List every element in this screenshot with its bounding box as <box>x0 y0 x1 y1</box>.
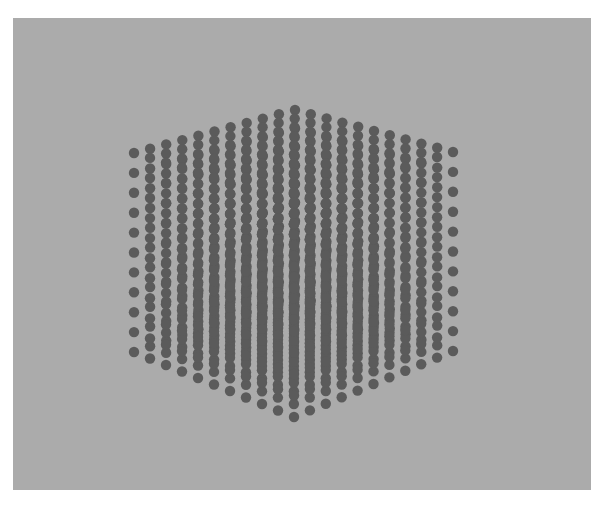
lattice-dot <box>416 247 426 257</box>
lattice-dot <box>209 163 219 173</box>
lattice-dot <box>337 245 347 255</box>
lattice-dot <box>353 149 363 159</box>
lattice-dot <box>368 244 378 254</box>
lattice-dot <box>416 278 426 288</box>
lattice-dot <box>289 158 299 168</box>
lattice-dot <box>432 143 442 153</box>
lattice-dot <box>177 193 187 203</box>
lattice-dot <box>257 314 267 324</box>
lattice-dot <box>273 163 283 173</box>
lattice-dot <box>432 292 442 302</box>
lattice-dot <box>273 154 283 164</box>
lattice-dot <box>145 262 155 272</box>
lattice-dot <box>289 131 299 141</box>
lattice-dot <box>209 204 219 214</box>
lattice-dot <box>337 214 347 224</box>
lattice-dot <box>369 126 379 136</box>
lattice-dot <box>161 188 171 198</box>
lattice-dot <box>145 313 155 323</box>
lattice-dot <box>161 168 171 178</box>
lattice-dot <box>209 144 219 154</box>
lattice-dot <box>352 229 362 239</box>
lattice-dot <box>209 285 219 295</box>
lattice-dot <box>368 296 378 306</box>
lattice-dot <box>321 240 331 250</box>
lattice-dot <box>321 187 331 197</box>
lattice-dot <box>257 303 267 313</box>
lattice-dot <box>400 243 410 253</box>
lattice-dot <box>416 298 426 308</box>
lattice-dot <box>321 272 331 282</box>
lattice-dot <box>289 326 299 336</box>
lattice-dot <box>193 300 203 310</box>
lattice-dot <box>353 122 363 132</box>
lattice-dot <box>193 188 203 198</box>
lattice-dot <box>305 126 315 136</box>
lattice-dot <box>384 259 394 269</box>
lattice-dot <box>289 149 299 159</box>
lattice-dot <box>241 338 251 348</box>
lattice-dot <box>432 272 442 282</box>
lattice-dot <box>352 332 362 342</box>
lattice-dot <box>241 182 251 192</box>
lattice-dot <box>209 126 219 136</box>
lattice-dot <box>368 224 378 234</box>
lattice-dot <box>209 135 219 145</box>
lattice-dot <box>209 317 219 327</box>
lattice-dot <box>209 234 219 244</box>
lattice-dot <box>241 145 251 155</box>
lattice-dot <box>257 261 267 271</box>
lattice-dot <box>273 384 283 394</box>
lattice-dot <box>193 239 203 249</box>
lattice-dot <box>129 287 139 297</box>
lattice-dot <box>161 239 171 249</box>
lattice-dot <box>416 319 426 329</box>
lattice-dot <box>305 299 315 309</box>
lattice-dot <box>209 224 219 234</box>
lattice-dot <box>337 317 347 327</box>
lattice-dot <box>161 148 171 158</box>
lattice-dot <box>161 228 171 238</box>
lattice-dot <box>225 131 235 141</box>
lattice-dot <box>337 276 347 286</box>
lattice-dot <box>145 223 155 233</box>
lattice-dot <box>273 299 283 309</box>
lattice-dot <box>193 332 203 342</box>
lattice-dot <box>384 352 394 362</box>
lattice-dot <box>305 182 315 192</box>
lattice-dot <box>209 265 219 275</box>
lattice-dot <box>321 219 331 229</box>
lattice-dot <box>177 203 187 213</box>
lattice-dot <box>321 282 331 292</box>
lattice-dot <box>225 261 235 271</box>
lattice-dot <box>241 163 251 173</box>
lattice-dot <box>225 291 235 301</box>
lattice-dot <box>161 158 171 168</box>
lattice-dot <box>257 399 267 409</box>
lattice-dot <box>257 229 267 239</box>
lattice-dot <box>257 198 267 208</box>
lattice-dot <box>177 326 187 336</box>
lattice-dot <box>289 390 299 400</box>
lattice-dot <box>289 356 299 366</box>
lattice-dot <box>400 193 410 203</box>
lattice-dot <box>129 247 139 257</box>
lattice-dot <box>209 359 219 369</box>
lattice-dot <box>209 255 219 265</box>
lattice-dot <box>337 308 347 318</box>
lattice-dot <box>273 224 283 234</box>
lattice-dot <box>384 249 394 259</box>
lattice-dot <box>241 127 251 137</box>
lattice-dot <box>416 359 426 369</box>
lattice-dot <box>129 307 139 317</box>
lattice-dot <box>161 198 171 208</box>
lattice-dot <box>321 344 331 354</box>
lattice-dot <box>241 135 251 145</box>
lattice-dot <box>289 261 299 271</box>
lattice-dot <box>400 153 410 163</box>
lattice-dot <box>177 305 187 315</box>
lattice-dot <box>177 366 187 376</box>
lattice-dot <box>241 214 251 224</box>
lattice-dot <box>241 266 251 276</box>
lattice-dot <box>368 255 378 265</box>
